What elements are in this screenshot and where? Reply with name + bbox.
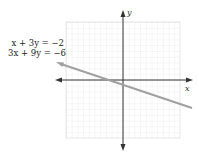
x-axis-right-arrow-icon	[186, 78, 193, 83]
x-axis-label: x	[185, 84, 190, 93]
y-axis-down-arrow-icon	[121, 144, 126, 151]
equation-2: 3x + 9y = −6	[8, 48, 64, 58]
x-axis-left-arrow-icon	[55, 78, 62, 83]
equation-1: x + 3y = −2	[8, 38, 64, 48]
coordinate-plane	[0, 0, 199, 154]
equation-labels: x + 3y = −2 3x + 9y = −6	[8, 38, 64, 58]
y-axis-up-arrow-icon	[121, 10, 126, 17]
line-left-arrow-icon	[56, 62, 64, 67]
y-axis-label: y	[127, 8, 132, 17]
